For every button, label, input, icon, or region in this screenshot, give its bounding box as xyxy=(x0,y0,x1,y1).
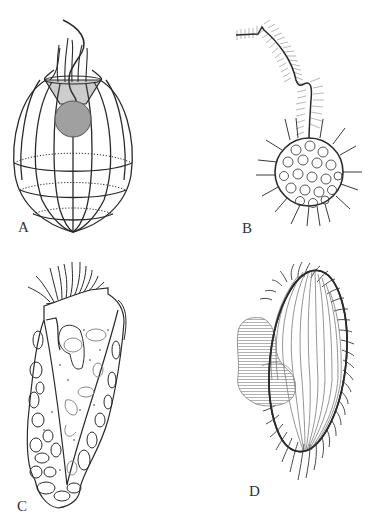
protist-figure: A B C D xyxy=(0,0,373,521)
panel-b-illustration xyxy=(236,20,362,226)
panel-label-d: D xyxy=(249,483,260,499)
panel-c-illustration xyxy=(27,262,126,508)
panel-label-c: C xyxy=(17,498,27,514)
panel-a-tentacles xyxy=(50,38,87,82)
panel-d-illustration xyxy=(237,262,355,480)
panel-c-lorica-outline xyxy=(27,288,124,508)
panel-label-b: B xyxy=(242,220,252,236)
panel-label-a: A xyxy=(18,219,29,235)
panel-a-illustration xyxy=(14,20,132,232)
panel-b-flagellar-hairs xyxy=(237,20,324,135)
panel-a-cell-body xyxy=(55,101,91,137)
